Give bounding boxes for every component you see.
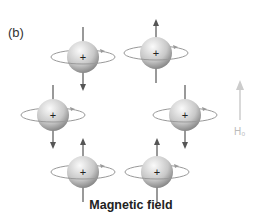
spin-bottom-right: + [125,138,189,202]
svg-text:+: + [154,166,160,178]
spin-middle-left: + [21,85,85,149]
spin-top-right: + [124,19,188,83]
spin-middle-right: + [153,85,217,149]
field-arrow-icon [236,80,244,120]
spin-up-arrow-icon [153,19,159,26]
svg-text:+: + [80,51,86,63]
svg-text:+: + [182,109,188,121]
spin-down-arrow-icon [182,142,188,149]
spin-down-arrow-icon [80,84,86,91]
spin-up-arrow-icon [154,138,160,145]
spin-up-arrow-icon [80,138,86,145]
field-label: H₀ [234,126,245,137]
svg-text:+: + [153,47,159,59]
svg-text:+: + [80,166,86,178]
spin-bottom-left: + [51,138,115,202]
svg-text:+: + [50,109,56,121]
caption: Magnetic field [0,198,262,212]
spin-diagram: ++++++ [0,0,262,217]
spin-down-arrow-icon [50,142,56,149]
spin-top-left: + [51,27,115,91]
